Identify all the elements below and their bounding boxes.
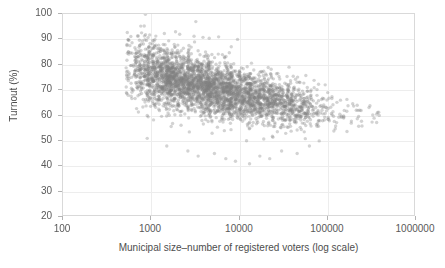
y-tick-mark	[58, 38, 62, 39]
x-tick-label: 1000	[110, 224, 190, 234]
y-tick-mark	[58, 191, 62, 192]
y-tick-label: 30	[18, 186, 52, 196]
scatter-points-layer	[63, 14, 415, 216]
x-tick-mark	[239, 216, 240, 220]
plot-area	[62, 13, 415, 216]
y-tick-label: 40	[18, 160, 52, 170]
y-tick-label: 80	[18, 59, 52, 69]
x-tick-label: 100	[22, 224, 102, 234]
x-tick-label: 100000	[287, 224, 367, 234]
y-tick-mark	[58, 89, 62, 90]
x-tick-mark	[150, 216, 151, 220]
scatter-plot-figure: 2030405060708090100 10010001000010000010…	[0, 0, 445, 268]
y-tick-label: 20	[18, 211, 52, 221]
y-tick-label: 50	[18, 135, 52, 145]
y-tick-mark	[58, 64, 62, 65]
y-tick-mark	[58, 165, 62, 166]
x-tick-mark	[327, 216, 328, 220]
x-axis-label: Municipal size–number of registered vote…	[62, 242, 415, 253]
y-tick-label: 70	[18, 84, 52, 94]
y-tick-label: 90	[18, 33, 52, 43]
y-axis-label: Turnout (%)	[8, 36, 19, 156]
x-tick-label: 10000	[199, 224, 279, 234]
x-tick-mark	[415, 216, 416, 220]
y-tick-mark	[58, 115, 62, 116]
x-tick-mark	[62, 216, 63, 220]
y-tick-label: 100	[18, 8, 52, 18]
x-tick-label: 1000000	[375, 224, 445, 234]
y-tick-mark	[58, 140, 62, 141]
y-tick-mark	[58, 13, 62, 14]
y-tick-label: 60	[18, 110, 52, 120]
